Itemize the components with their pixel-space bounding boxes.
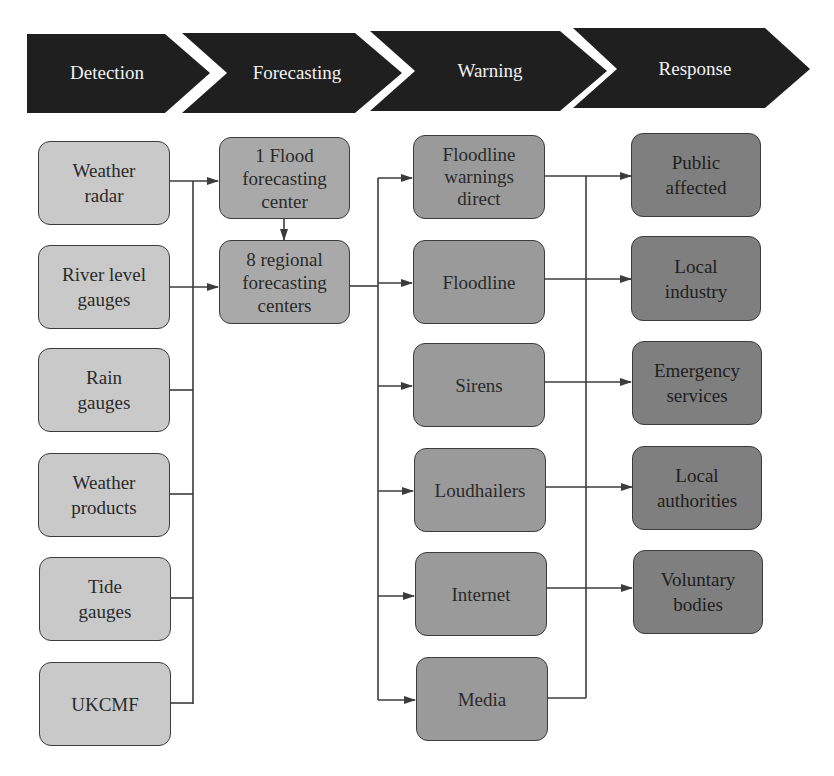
response-voluntary-bodies: Voluntary bodies <box>633 550 763 634</box>
warning-loudhailers: Loudhailers <box>414 448 546 532</box>
detection-river-level-gauges: River level gauges <box>38 245 170 329</box>
warning-floodline-warnings-direct: Floodline warnings direct <box>413 135 545 219</box>
response-emergency-services: Emergency services <box>632 341 762 425</box>
flood-warning-diagram: Detection Forecasting Warning Response <box>0 0 834 776</box>
stage-label-warning: Warning <box>410 30 570 112</box>
forecasting-flood-center: 1 Flood forecasting center <box>219 137 350 219</box>
stage-label-detection: Detection <box>27 32 187 114</box>
forecasting-regional-centers: 8 regional forecasting centers <box>219 240 350 324</box>
warning-sirens: Sirens <box>413 343 545 427</box>
detection-ukcmf: UKCMF <box>39 662 171 746</box>
response-public-affected: Public affected <box>631 133 761 217</box>
response-local-authorities: Local authorities <box>632 446 762 530</box>
detection-rain-gauges: Rain gauges <box>38 348 170 432</box>
stage-label-forecasting: Forecasting <box>222 32 372 114</box>
response-local-industry: Local industry <box>631 236 761 321</box>
warning-internet: Internet <box>415 552 547 636</box>
warning-floodline: Floodline <box>413 240 545 324</box>
detection-tide-gauges: Tide gauges <box>39 557 171 641</box>
warning-media: Media <box>416 657 548 741</box>
stage-label-response: Response <box>615 28 775 110</box>
detection-weather-products: Weather products <box>38 453 170 537</box>
detection-weather-radar: Weather radar <box>38 141 170 225</box>
